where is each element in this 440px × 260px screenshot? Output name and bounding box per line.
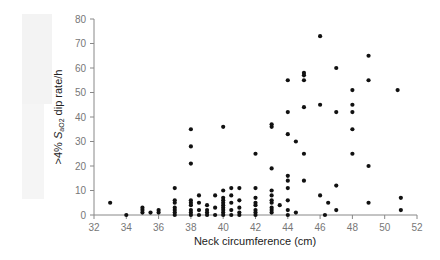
data-point [326,201,330,205]
data-points [108,34,403,217]
data-point [366,54,370,58]
data-point [173,206,177,210]
data-point [286,198,290,202]
data-point [302,78,306,82]
data-point [350,152,354,156]
data-point [237,206,241,210]
data-point [399,208,403,212]
scatter-chart: 323436384042444648505201020304050607080 … [0,0,440,260]
y-tick-label: 20 [75,161,87,172]
data-point [221,188,225,192]
data-point [157,208,161,212]
data-point [399,196,403,200]
data-point [221,125,225,129]
x-tick-label: 50 [379,222,391,233]
data-point [205,208,209,212]
data-point [197,208,201,212]
data-point [318,34,322,38]
x-tick-label: 44 [282,222,294,233]
data-point [253,152,257,156]
x-axis-label: Neck circumference (cm) [194,235,316,247]
data-point [334,110,338,114]
data-point [302,105,306,109]
data-point [189,161,193,165]
y-tick-label: 50 [75,87,87,98]
y-tick-label: 70 [75,38,87,49]
y-tick-label: 60 [75,63,87,74]
data-point [124,213,128,217]
data-point [286,174,290,178]
data-point [286,208,290,212]
data-point [253,201,257,205]
data-point [350,127,354,131]
y-tick-label: 30 [75,136,87,147]
data-point [302,152,306,156]
data-point [229,213,233,217]
data-point [294,139,298,143]
data-point [189,127,193,131]
x-tick-label: 34 [121,222,133,233]
data-point [318,193,322,197]
data-point [148,210,152,214]
data-point [270,188,274,192]
x-tick-label: 36 [153,222,165,233]
data-point [221,196,225,200]
data-point [173,198,177,202]
data-point [270,166,274,170]
data-point [213,193,217,197]
data-point [350,103,354,107]
data-point [197,201,201,205]
x-tick-label: 48 [347,222,359,233]
data-point [366,78,370,82]
data-point [286,213,290,217]
data-point [237,186,241,190]
data-point [350,110,354,114]
x-tick-label: 46 [315,222,327,233]
data-point [173,186,177,190]
data-point [334,184,338,188]
data-point [213,213,217,217]
data-point [237,198,241,202]
x-tick-label: 42 [250,222,262,233]
data-point [302,71,306,75]
x-tick-label: 38 [185,222,197,233]
data-point [366,164,370,168]
data-point [286,78,290,82]
axes: 323436384042444648505201020304050607080 [75,14,423,234]
data-point [350,88,354,92]
data-point [286,179,290,183]
data-point [318,103,322,107]
data-point [197,193,201,197]
data-point [229,186,233,190]
y-tick-label: 10 [75,185,87,196]
data-point [286,132,290,136]
data-point [286,186,290,190]
data-point [270,193,274,197]
data-point [108,201,112,205]
data-point [189,208,193,212]
data-point [270,198,274,202]
x-tick-label: 32 [88,222,100,233]
data-point [253,196,257,200]
x-tick-label: 52 [411,222,423,233]
data-point [294,210,298,214]
data-point [366,201,370,205]
data-point [205,203,209,207]
data-point [286,110,290,114]
data-point [253,186,257,190]
data-point [213,206,217,210]
x-tick-label: 40 [218,222,230,233]
data-point [253,208,257,212]
data-point [237,210,241,214]
data-point [334,66,338,70]
y-axis-label: >4% SaO2 dip rate/h [52,70,65,165]
data-point [334,208,338,212]
data-point [270,206,274,210]
data-point [396,88,400,92]
data-point [140,206,144,210]
y-tick-label: 40 [75,112,87,123]
data-point [197,213,201,217]
y-tick-label: 80 [75,14,87,25]
data-point [189,144,193,148]
data-point [270,122,274,126]
